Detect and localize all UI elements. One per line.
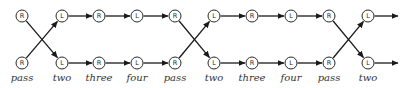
node-letter: R [173,12,178,20]
state-node-r: R [246,10,258,22]
node-letter: R [97,12,102,20]
state-node-l: L [362,57,374,69]
state-node-l: L [285,57,297,69]
column-label: three [85,72,112,83]
node-letter: L [60,12,64,20]
column-label: two [53,72,72,83]
node-letter: R [97,59,102,67]
state-node-r: R [16,10,28,22]
state-node-l: L [208,57,220,69]
edges-layer [26,16,398,63]
state-node-r: R [169,57,181,69]
node-letter: R [250,59,255,67]
node-letter: L [135,12,139,20]
column-label: pass [318,72,341,83]
column-label: four [280,72,303,83]
state-node-r: R [169,10,181,22]
node-letter: L [212,59,216,67]
state-node-l: L [56,10,68,22]
node-letter: L [135,59,139,67]
state-node-l: L [362,10,374,22]
state-node-r: R [323,10,335,22]
state-node-r: R [93,57,105,69]
node-letter: R [20,12,25,20]
node-letter: L [289,12,293,20]
state-node-l: L [285,10,297,22]
column-label: four [126,72,149,83]
node-letter: R [20,59,25,67]
node-letter: L [289,59,293,67]
state-node-r: R [246,57,258,69]
node-letter: R [327,12,332,20]
column-label: three [238,72,265,83]
column-label: two [359,72,378,83]
state-node-r: R [16,57,28,69]
node-letter: R [250,12,255,20]
node-letter: R [173,59,178,67]
state-node-l: L [208,10,220,22]
column-label: pass [11,72,34,83]
state-node-r: R [93,10,105,22]
node-letter: L [366,59,370,67]
node-letter: L [60,59,64,67]
state-node-l: L [131,10,143,22]
labels-layer: passtwothreefourpasstwothreefourpasstwo [11,72,378,83]
state-node-r: R [323,57,335,69]
node-letter: R [327,59,332,67]
column-label: two [205,72,224,83]
state-node-l: L [131,57,143,69]
node-letter: L [212,12,216,20]
node-letter: L [366,12,370,20]
column-label: pass [164,72,187,83]
state-node-l: L [56,57,68,69]
state-sequence-diagram: RRLLRRLLRRLLRRLLRRLL passtwothreefourpas… [0,0,414,88]
